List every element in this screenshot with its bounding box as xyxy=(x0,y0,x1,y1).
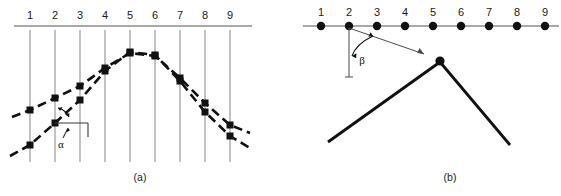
node-dot-3 xyxy=(373,22,381,30)
peak-vertex-dot xyxy=(435,56,444,65)
alpha-angle-label: α xyxy=(58,138,64,150)
panel-b-caption: (b) xyxy=(444,171,457,183)
beta-ray-arrowhead xyxy=(417,48,424,54)
marker-upper-2 xyxy=(52,95,59,102)
node-dot-9 xyxy=(541,22,549,30)
beta-angle-label: β xyxy=(359,54,365,66)
node-label-8: 8 xyxy=(514,6,520,18)
marker-lower-4 xyxy=(102,68,109,75)
node-label-5: 5 xyxy=(430,6,436,18)
diagram-canvas: 1 2 3 4 5 6 7 8 9 xyxy=(0,0,561,196)
node-dot-6 xyxy=(457,22,465,30)
node-label-7: 7 xyxy=(486,6,492,18)
marker-lower-6 xyxy=(152,52,159,59)
tick-label-4: 4 xyxy=(102,9,108,21)
node-dot-8 xyxy=(513,22,521,30)
node-label-4: 4 xyxy=(402,6,408,18)
beta-arc xyxy=(352,36,373,56)
tick-label-3: 3 xyxy=(77,9,83,21)
marker-lower-9 xyxy=(227,133,234,140)
marker-upper-8 xyxy=(202,100,209,107)
node-label-1: 1 xyxy=(318,6,324,18)
figure-root: 1 2 3 4 5 6 7 8 9 xyxy=(0,0,561,196)
node-dot-5 xyxy=(429,22,437,30)
tick-label-1: 1 xyxy=(27,9,33,21)
beta-angle-annotation: β xyxy=(352,32,373,66)
marker-lower-7 xyxy=(177,78,184,85)
marker-upper-9 xyxy=(227,122,234,129)
node-dot-4 xyxy=(401,22,409,30)
tick-label-5: 5 xyxy=(127,9,133,21)
node-label-2: 2 xyxy=(346,6,352,18)
tick-label-9: 9 xyxy=(227,9,233,21)
node-label-3: 3 xyxy=(374,6,380,18)
panel-b: 1 2 3 4 5 6 7 8 9 β xyxy=(303,6,559,183)
panel-b-tick-labels: 1 2 3 4 5 6 7 8 9 xyxy=(318,6,548,18)
marker-upper-1 xyxy=(27,107,34,114)
panel-a-tick-labels: 1 2 3 4 5 6 7 8 9 xyxy=(27,9,233,21)
panel-a-caption: (a) xyxy=(134,171,147,183)
alpha-angle-annotation: α xyxy=(55,107,88,150)
thick-vee-polyline xyxy=(328,62,510,145)
node-dot-1 xyxy=(317,22,325,30)
node-label-9: 9 xyxy=(542,6,548,18)
node-label-6: 6 xyxy=(458,6,464,18)
beta-ray-line xyxy=(349,28,424,54)
tick-label-2: 2 xyxy=(52,9,58,21)
marker-lower-8 xyxy=(202,109,209,116)
tick-label-7: 7 xyxy=(177,9,183,21)
node-dot-7 xyxy=(485,22,493,30)
marker-upper-3 xyxy=(77,83,84,90)
panel-a: 1 2 3 4 5 6 7 8 9 xyxy=(10,9,252,183)
marker-lower-1 xyxy=(27,142,34,149)
marker-lower-5 xyxy=(127,49,134,56)
marker-lower-3 xyxy=(77,97,84,104)
tick-label-6: 6 xyxy=(152,9,158,21)
tick-label-8: 8 xyxy=(202,9,208,21)
alpha-leader-line xyxy=(63,128,68,138)
